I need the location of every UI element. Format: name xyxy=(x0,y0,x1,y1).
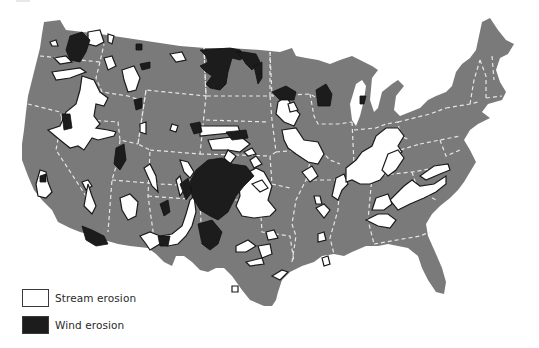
legend-label-stream: Stream erosion xyxy=(55,292,136,304)
legend-item-wind-erosion: Wind erosion xyxy=(22,315,136,335)
stream-erosion-swatch-icon xyxy=(22,289,49,307)
legend-label-wind: Wind erosion xyxy=(55,319,124,331)
legend-item-stream-erosion: Stream erosion xyxy=(22,288,136,308)
map-legend: Stream erosion Wind erosion xyxy=(22,288,136,342)
wind-erosion-swatch-icon xyxy=(22,316,49,334)
